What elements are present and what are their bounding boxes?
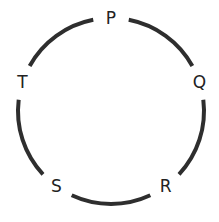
circle-arc (18, 100, 43, 175)
circle-arc (179, 100, 204, 175)
circle-arc (72, 195, 151, 204)
circle-diagram: PQRST (0, 0, 219, 222)
point-label-p: P (106, 8, 116, 28)
point-label-s: S (51, 176, 62, 196)
point-label-q: Q (193, 72, 206, 92)
point-label-t: T (16, 72, 28, 92)
point-label-r: R (160, 176, 172, 196)
circle-arc (129, 20, 193, 66)
circle-arc (30, 20, 94, 66)
